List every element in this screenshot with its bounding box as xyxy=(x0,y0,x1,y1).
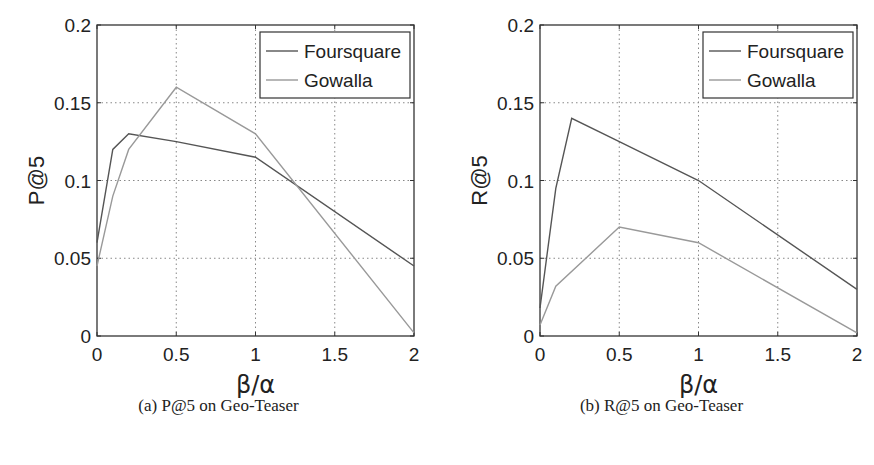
x-tick-label: 0 xyxy=(535,344,546,365)
x-tick-label: 1.5 xyxy=(765,344,791,365)
y-tick-label: 0.1 xyxy=(65,171,91,192)
x-tick-label: 0.5 xyxy=(163,344,189,365)
chart-recall: 00.511.5200.050.10.150.2β/αR@5Foursquare… xyxy=(443,0,874,400)
series-line-gowalla xyxy=(540,227,857,333)
legend-label: Foursquare xyxy=(304,41,401,62)
y-tick-label: 0.15 xyxy=(54,93,91,114)
legend-label: Gowalla xyxy=(747,70,816,91)
caption-recall: (b) R@5 on Geo-Teaser xyxy=(443,396,874,416)
y-axis-label: P@5 xyxy=(24,156,49,205)
y-tick-label: 0.1 xyxy=(508,171,534,192)
chart-panel-recall: 00.511.5200.050.10.150.2β/αR@5Foursquare… xyxy=(443,0,874,465)
x-tick-label: 2 xyxy=(409,344,420,365)
y-tick-label: 0.2 xyxy=(65,15,91,36)
x-axis-label: β/α xyxy=(679,371,718,399)
legend: FoursquareGowalla xyxy=(703,32,853,98)
y-tick-label: 0.15 xyxy=(497,93,534,114)
y-tick-label: 0 xyxy=(80,326,91,347)
x-axis-label: β/α xyxy=(236,371,275,399)
y-tick-label: 0.05 xyxy=(497,248,534,269)
x-tick-label: 1.5 xyxy=(322,344,348,365)
y-axis-label: R@5 xyxy=(467,155,492,205)
x-tick-label: 0.5 xyxy=(606,344,632,365)
legend: FoursquareGowalla xyxy=(260,32,410,98)
caption-precision: (a) P@5 on Geo-Teaser xyxy=(0,396,437,416)
chart-precision: 00.511.5200.050.10.150.2β/αP@5Foursquare… xyxy=(0,0,437,400)
x-tick-label: 1 xyxy=(250,344,261,365)
y-tick-label: 0 xyxy=(523,326,534,347)
legend-label: Foursquare xyxy=(747,41,844,62)
legend-label: Gowalla xyxy=(304,70,373,91)
y-tick-label: 0.2 xyxy=(508,15,534,36)
x-tick-label: 2 xyxy=(852,344,863,365)
x-tick-label: 0 xyxy=(92,344,103,365)
y-tick-label: 0.05 xyxy=(54,248,91,269)
chart-panel-precision: 00.511.5200.050.10.150.2β/αP@5Foursquare… xyxy=(0,0,437,465)
x-tick-label: 1 xyxy=(693,344,704,365)
